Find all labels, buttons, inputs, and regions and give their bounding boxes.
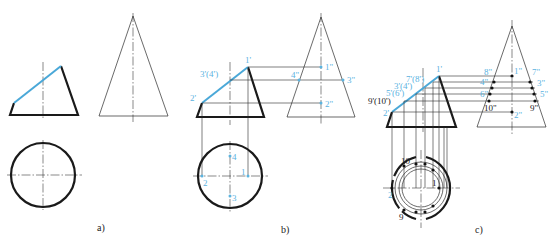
label-2-top-c: 2	[388, 190, 393, 200]
label-9-dblprime: 9"	[530, 103, 539, 113]
panel-caption-a: a)	[97, 222, 105, 234]
side-view: 8" 1" 7" 4" 3" 6" 5" 10" 9" 2"	[477, 20, 549, 134]
label-9-10-prime: 9'(10')	[368, 96, 391, 106]
label-1-prime: 1'	[245, 55, 252, 65]
label-5-dblprime: 5"	[540, 89, 549, 99]
label-3-dblprime-c: 3"	[537, 78, 546, 88]
front-view: 1' 3'(4') 2'	[190, 55, 343, 176]
panel-caption-b: b)	[281, 224, 289, 236]
truncated-cone-projection-figure: a) 1' 3'(4') 2' 1" 4" 3"	[0, 0, 558, 243]
label-2-dblprime: 2"	[325, 99, 334, 109]
label-3-4-prime: 3'(4')	[200, 69, 218, 79]
panel-b: 1' 3'(4') 2' 1" 4" 3" 2" 4 1 2	[190, 13, 356, 236]
label-4-dblprime-c: 4"	[480, 77, 489, 87]
front-view: 1' 7'(8') 3'(4') 5'(6') 9'(10') 2'	[368, 64, 539, 188]
panel-a: a)	[7, 13, 168, 234]
side-view	[99, 13, 168, 122]
top-view	[7, 140, 82, 210]
label-7-dblprime: 7"	[532, 67, 541, 77]
label-2-prime: 2'	[190, 93, 197, 103]
label-1-top-c: 1	[432, 178, 437, 188]
label-10-top: 10	[401, 156, 411, 166]
panel-caption-c: c)	[475, 224, 483, 236]
label-4-dblprime: 4"	[291, 70, 300, 80]
top-view: 10 1 2 9	[383, 150, 460, 228]
label-2-prime-c: 2'	[383, 108, 390, 118]
label-3-dblprime: 3"	[347, 75, 356, 85]
label-8-dblprime: 8"	[484, 67, 493, 77]
label-1-dblprime-c: 1"	[514, 66, 523, 76]
label-1-dblprime: 1"	[325, 62, 334, 72]
label-4-top: 4	[232, 152, 237, 162]
label-6-dblprime: 6"	[480, 89, 489, 99]
side-view: 1" 4" 3" 2"	[287, 13, 356, 124]
label-9-top: 9	[399, 212, 404, 222]
label-2-dblprime-c: 2"	[514, 110, 523, 120]
top-view: 4 1 2 3	[193, 141, 268, 212]
label-1-top: 1	[241, 167, 246, 177]
front-view	[10, 62, 78, 120]
label-2-top: 2	[203, 178, 208, 188]
panel-c: 1' 7'(8') 3'(4') 5'(6') 9'(10') 2' 8" 1"…	[368, 20, 549, 236]
label-1-prime-c: 1'	[436, 64, 443, 74]
label-3-top: 3	[232, 193, 237, 203]
label-10-dblprime: 10"	[484, 103, 497, 113]
